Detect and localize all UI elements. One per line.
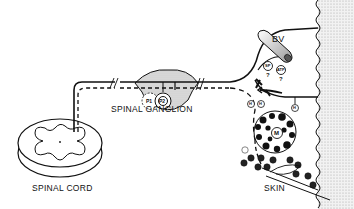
spinal-cord-label: SPINAL CORD (32, 183, 93, 193)
atp-label: ATP (277, 67, 285, 72)
blood-vessel-label: BV (272, 34, 285, 44)
skin-label: SKIN (264, 183, 285, 193)
mast-cell-label: M (274, 130, 279, 136)
histamine-label-1: H (249, 101, 252, 106)
histamine-label-3: H (293, 105, 296, 110)
histamine-label-2: H (259, 101, 262, 106)
skin-epidermis (316, 0, 354, 209)
unknown-mark-2: ? (279, 76, 283, 82)
ganglion-cell-2-label: P2 (159, 98, 165, 104)
spinal-cord (18, 119, 102, 177)
substance-p-label: SP (265, 63, 270, 68)
spinal-ganglion-label: SPINAL GANGLION (111, 104, 193, 114)
arrow (258, 87, 282, 93)
unknown-mark-1: ? (266, 72, 270, 78)
ganglion-cell-1-label: P1 (146, 98, 152, 104)
